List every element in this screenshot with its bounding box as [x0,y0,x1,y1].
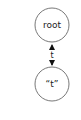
node-t: “t” [35,67,69,101]
node-root-label: root [43,20,62,30]
node-root: root [35,8,69,42]
node-t-label: “t” [46,79,59,89]
tree-diagram: root t “t” [0,0,81,120]
edge-root-t: t [48,45,56,65]
edge-label: t [50,51,53,60]
